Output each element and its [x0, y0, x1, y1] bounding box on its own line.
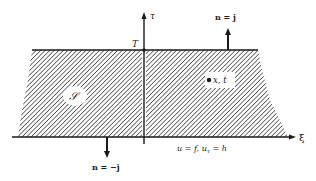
xi-axis-label: ξ: [299, 132, 305, 143]
tau-axis-label: τ: [150, 11, 156, 21]
top-normal-arrowhead-icon: [225, 28, 231, 35]
boundary-condition-tail: = h: [210, 144, 227, 153]
bottom-normal-arrowhead-icon: [104, 151, 110, 158]
point-label: x, t: [213, 75, 227, 85]
tau-axis-arrowhead-icon: [142, 12, 147, 19]
bottom-normal-label: n = −j: [92, 162, 120, 172]
point-marker: [207, 78, 211, 82]
t-intercept-dot: [142, 48, 146, 52]
top-normal-label: n = j: [215, 12, 236, 22]
xi-axis-arrowhead-icon: [289, 135, 296, 140]
boundary-condition-main: u = f, u: [177, 144, 207, 153]
hatched-region: [18, 50, 288, 137]
diagram-canvas: τ ξ T 𝒮 x, t n = j n = −j u = f, uτ = h: [0, 0, 316, 181]
boundary-condition-label: u = f, uτ = h: [177, 144, 227, 154]
t-intercept-label: T: [132, 39, 139, 49]
